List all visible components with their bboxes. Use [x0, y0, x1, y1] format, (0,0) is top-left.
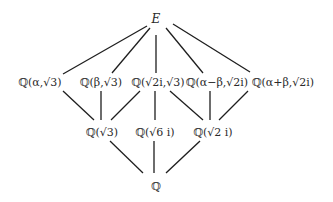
edge-q-alpha-sqrt3-to-q-sqrt3: [63, 91, 94, 120]
edge-q-sqrt2i-to-q: [166, 141, 200, 173]
node-q-rationals: ℚ: [151, 181, 161, 192]
node-q-alpha-sqrt3: ℚ(α,√3): [18, 77, 61, 88]
lattice-edges: [0, 0, 333, 202]
edge-q-sqrt2i-sqrt3-to-q-sqrt2i: [170, 91, 203, 120]
edge-q-sqrt2i-sqrt3-to-q-sqrt3: [111, 91, 140, 120]
node-q-sqrt2i: ℚ(√2 i): [193, 127, 232, 138]
node-q-alpha-minus-beta-sqrt2i: ℚ(α−β,√2i): [186, 77, 248, 88]
node-q-beta-sqrt3: ℚ(β,√3): [80, 77, 122, 88]
edge-q-alpha-plus-beta-to-q-sqrt2i: [219, 91, 248, 120]
edge-e-to-q-alpha-plus-beta: [173, 24, 250, 72]
edge-q-sqrt3-to-q: [110, 141, 143, 173]
edge-e-to-q-alpha-sqrt3: [63, 26, 147, 74]
node-q-sqrt2i-sqrt3: ℚ(√2i,√3): [131, 77, 184, 88]
edge-e-to-q-alpha-minus-beta: [166, 28, 203, 73]
node-q-sqrt3: ℚ(√3): [86, 127, 118, 138]
field-lattice-diagram: E ℚ(α,√3) ℚ(β,√3) ℚ(√2i,√3) ℚ(α−β,√2i) ℚ…: [0, 0, 333, 202]
node-e: E: [152, 13, 161, 25]
node-q-sqrt6i: ℚ(√6 i): [135, 127, 174, 138]
node-q-alpha-plus-beta-sqrt2i: ℚ(α+β,√2i): [252, 77, 314, 88]
